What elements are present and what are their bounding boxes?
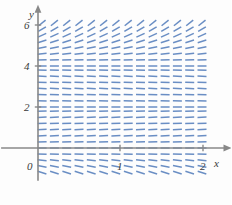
slope-segment (75, 160, 84, 161)
slope-segment (87, 33, 95, 37)
slope-segment (174, 27, 182, 32)
slope-segment (136, 47, 145, 49)
slope-segment (149, 20, 156, 26)
slope-segment (87, 40, 96, 43)
slope-segment (99, 47, 108, 49)
slope-segment (62, 160, 71, 161)
slope-segment (124, 171, 133, 174)
slope-segment (124, 160, 133, 161)
slope-segment (38, 40, 47, 43)
slope-segment (99, 33, 107, 37)
slope-segment (99, 53, 108, 54)
slope-segments-group (38, 20, 207, 174)
slope-segment (148, 166, 157, 168)
slope-segment (173, 33, 181, 37)
slope-segment (75, 171, 84, 174)
slope-segment (38, 53, 47, 54)
slope-segment (100, 20, 107, 26)
slope-segment (88, 20, 95, 26)
slope-segment (185, 40, 194, 43)
slope-segment (125, 20, 132, 26)
slope-segment (50, 53, 59, 54)
slope-segment (50, 40, 59, 43)
slope-segment (173, 171, 182, 174)
slope-segment (186, 20, 193, 26)
slope-segment (162, 20, 169, 26)
slope-segment (186, 33, 194, 37)
slope-segment (87, 53, 96, 54)
slope-segment (136, 33, 144, 37)
slope-segment (62, 53, 71, 54)
x-tick-label-1: 1 (117, 161, 123, 172)
slope-segment (38, 33, 46, 37)
slope-segment (112, 27, 120, 32)
slope-segment (173, 40, 182, 43)
slope-segment (62, 171, 71, 174)
slope-segment (185, 53, 194, 54)
slope-segment (173, 47, 182, 49)
slope-segment (38, 27, 46, 32)
y-tick-label-4: 4 (24, 61, 30, 72)
slope-segment (173, 166, 182, 168)
slope-segment (161, 160, 170, 161)
slope-segment (149, 33, 157, 37)
slope-segment (62, 47, 71, 49)
y-axis-arrowhead (35, 5, 42, 13)
slope-segment (87, 166, 96, 168)
slope-segment (75, 166, 84, 168)
slope-segment (161, 33, 169, 37)
slope-segment (50, 166, 59, 168)
slope-segment (185, 47, 194, 49)
slope-segment (174, 20, 181, 26)
slope-segment (50, 47, 59, 49)
slope-segment (51, 27, 59, 32)
slope-segment (50, 33, 58, 37)
slope-segment (99, 171, 108, 174)
slope-segment (63, 20, 70, 26)
slope-segment (137, 20, 144, 26)
slope-segment (185, 160, 194, 161)
slope-segment (38, 160, 47, 161)
slope-segment (198, 40, 207, 43)
slope-segment (185, 166, 194, 168)
slope-segment (87, 27, 95, 32)
slope-segment (112, 33, 120, 37)
x-axis-label: x (214, 158, 219, 169)
slope-segment (148, 53, 157, 54)
slope-segment (63, 27, 71, 32)
slope-segment (38, 47, 47, 49)
origin-label: 0 (27, 161, 33, 172)
slope-segment (75, 27, 83, 32)
slope-segment (124, 27, 132, 32)
slope-segment (198, 33, 206, 37)
slope-segment (137, 27, 145, 32)
x-axis-arrowhead (224, 145, 232, 152)
slope-segment (99, 166, 108, 168)
slope-segment (198, 27, 206, 32)
slope-segment (38, 171, 47, 174)
slope-segment (75, 33, 83, 37)
slope-field-canvas (0, 0, 231, 205)
slope-segment (112, 40, 121, 43)
slope-segment (149, 171, 158, 174)
slope-segment (50, 160, 59, 161)
slope-segment (62, 40, 71, 43)
slope-segment (87, 171, 96, 174)
slope-segment (62, 166, 71, 168)
slope-segment (63, 33, 71, 37)
slope-segment (161, 27, 169, 32)
slope-segment (149, 27, 157, 32)
x-tick-label-2: 2 (200, 161, 206, 172)
slope-segment (173, 53, 182, 54)
slope-segment (161, 40, 170, 43)
slope-segment (75, 40, 84, 43)
slope-segment (136, 53, 145, 54)
slope-segment (99, 40, 108, 43)
slope-field-figure: 6 4 2 0 1 2 x y (0, 0, 231, 205)
slope-segment (148, 160, 157, 161)
slope-segment (124, 53, 133, 54)
slope-segment (185, 171, 194, 174)
y-tick-label-2: 2 (24, 102, 30, 113)
slope-segment (99, 160, 108, 161)
slope-segment (124, 47, 133, 49)
